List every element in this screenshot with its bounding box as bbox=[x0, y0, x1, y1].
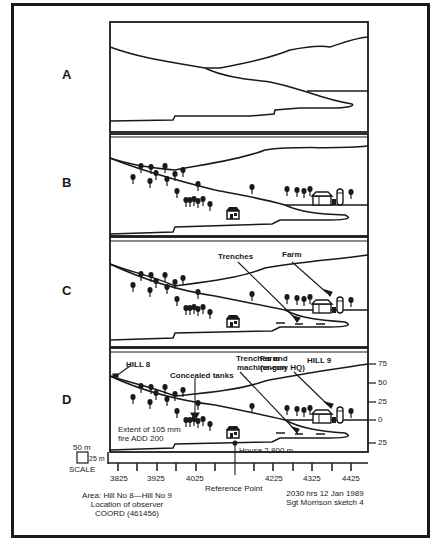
elevation-scale bbox=[368, 364, 376, 443]
elevation-tick-25: 25 bbox=[378, 397, 387, 406]
label-hill-9: HILL 9 bbox=[307, 356, 331, 365]
x-tick-4025: 4025 bbox=[186, 474, 204, 483]
label-farm: Farm bbox=[282, 250, 302, 259]
reference-point-label: Reference Point bbox=[205, 484, 262, 493]
scale-width-label: 50 m bbox=[73, 443, 91, 452]
label-trenches: Trenches bbox=[218, 252, 253, 261]
scale-height-label: 25 m bbox=[89, 455, 105, 463]
elevation-tick-neg-25: 25 bbox=[378, 438, 387, 447]
elevation-tick-75: 75 bbox=[378, 359, 387, 368]
x-tick-4325: 4325 bbox=[303, 474, 321, 483]
x-axis bbox=[108, 452, 368, 471]
label-farm-enemy-hq: Farm (enemy HQ) bbox=[260, 354, 305, 372]
label-concealed-tanks: Concealed tanks bbox=[170, 371, 234, 380]
panel-c-trees bbox=[130, 271, 353, 327]
scale-key-box bbox=[77, 452, 88, 463]
x-tick-3825: 3825 bbox=[110, 474, 128, 483]
panel-b-trees bbox=[130, 163, 353, 219]
scale-title: SCALE bbox=[69, 465, 95, 474]
panel-label-a: A bbox=[62, 68, 71, 83]
label-house-distance: House 2,800 m bbox=[239, 446, 293, 455]
label-hill-8: HILL 8 bbox=[126, 360, 150, 369]
panel-label-d: D bbox=[62, 393, 71, 408]
panel-label-b: B bbox=[62, 176, 71, 191]
panel-b bbox=[110, 134, 368, 236]
footer-time-author: 2030 hrs 12 Jan 1989 Sgt Morrison sketch… bbox=[275, 489, 375, 507]
label-extent-105mm: Extent of 105 mm fire ADD 200 bbox=[118, 425, 181, 443]
x-tick-4225: 4225 bbox=[265, 474, 283, 483]
x-tick-3925: 3925 bbox=[147, 474, 165, 483]
elevation-tick-50: 50 bbox=[378, 378, 387, 387]
panel-a bbox=[110, 22, 368, 132]
footer-area-info: Area: Hill No 8—Hill No 9 Location of ob… bbox=[72, 491, 182, 519]
elevation-tick-0: 0 bbox=[378, 415, 382, 424]
x-tick-4425: 4425 bbox=[342, 474, 360, 483]
panel-label-c: C bbox=[62, 284, 71, 299]
